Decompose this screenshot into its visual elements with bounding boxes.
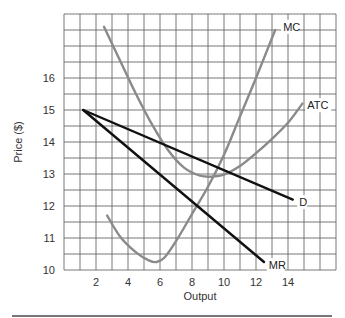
x-tick-label: 2 — [93, 276, 99, 288]
y-tick-label: 15 — [43, 104, 55, 116]
y-tick-label: 11 — [44, 232, 55, 244]
y-tick-label: 14 — [43, 136, 55, 148]
series-d-label: D — [299, 196, 307, 208]
y-tick-label: 10 — [43, 264, 55, 276]
series-mr-label: MR — [269, 259, 286, 271]
series-mc-label: MC — [283, 21, 300, 33]
x-tick-label: 8 — [189, 276, 195, 288]
x-tick-label: 14 — [282, 276, 294, 288]
x-tick-label: 10 — [218, 276, 230, 288]
y-axis-ticks: 10111213141516 — [43, 72, 55, 276]
x-tick-label: 12 — [250, 276, 262, 288]
cost-revenue-chart: 2468101214 10111213141516 MCATCDMR Outpu… — [0, 0, 345, 318]
series-atc-line — [104, 27, 302, 177]
series-labels: MCATCDMR — [267, 20, 331, 272]
series-mr-line — [83, 110, 264, 262]
y-tick-label: 13 — [43, 168, 55, 180]
y-tick-label: 12 — [43, 200, 55, 212]
series-d-line — [83, 110, 293, 200]
grid — [64, 14, 336, 270]
y-axis-label: Price ($) — [12, 121, 24, 163]
series-atc-label: ATC — [307, 99, 328, 111]
series-mc-line — [107, 30, 275, 262]
x-tick-label: 4 — [125, 276, 131, 288]
x-tick-label: 6 — [157, 276, 163, 288]
x-axis-ticks: 2468101214 — [93, 276, 294, 288]
x-axis-label: Output — [183, 290, 216, 302]
bottom-rule — [12, 315, 332, 317]
y-tick-label: 16 — [43, 72, 55, 84]
